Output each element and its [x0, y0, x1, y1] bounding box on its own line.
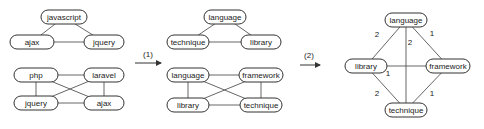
node-label: technique	[389, 106, 424, 115]
node-label: framework	[242, 71, 280, 80]
node-language: language	[167, 68, 209, 82]
node-label: jquery	[92, 38, 115, 47]
node-label: php	[29, 71, 43, 80]
node-technique: technique	[167, 35, 209, 49]
edge-weight-label: 1	[430, 29, 435, 38]
node-label: ajax	[97, 99, 112, 108]
node-language: language	[385, 13, 427, 27]
node-label: jquery	[24, 99, 47, 108]
node-label: language	[209, 13, 242, 22]
node-javascript: javascript	[41, 10, 87, 24]
arrows-layer: (1)(2)	[135, 50, 320, 65]
node-label: language	[390, 16, 423, 25]
node-label: library	[177, 101, 199, 110]
node-jquery: jquery	[14, 96, 58, 110]
node-library: library	[167, 98, 209, 112]
edge-weight-label: 2	[408, 38, 413, 47]
node-ajax: ajax	[10, 35, 54, 49]
node-label: technique	[244, 101, 279, 110]
node-laravel: laravel	[84, 68, 124, 82]
node-label: library	[250, 38, 272, 47]
edge-weight-label: 1	[386, 69, 391, 78]
node-framework: framework	[426, 59, 470, 73]
step-arrow: (1)	[135, 50, 161, 63]
step-label: (2)	[304, 51, 314, 60]
node-jquery: jquery	[84, 35, 124, 49]
edge-weight-label: 1	[430, 89, 435, 98]
graph-transformation-diagram: javascriptajaxjqueryphplaraveljqueryajax…	[0, 0, 484, 129]
node-library: library	[241, 35, 281, 49]
node-label: language	[172, 71, 205, 80]
node-language: language	[204, 10, 246, 24]
node-label: ajax	[25, 38, 40, 47]
node-library: library	[345, 59, 387, 73]
node-ajax: ajax	[84, 96, 124, 110]
node-label: library	[355, 62, 377, 71]
step-label: (1)	[143, 50, 153, 59]
node-label: laravel	[92, 71, 116, 80]
node-framework: framework	[239, 68, 283, 82]
edge-weight-label: 2	[375, 30, 380, 39]
edge-weight-label: 2	[375, 89, 380, 98]
node-label: javascript	[46, 13, 82, 22]
step-arrow: (2)	[300, 51, 320, 65]
node-technique: technique	[385, 103, 427, 117]
node-technique: technique	[240, 98, 282, 112]
node-label: technique	[171, 38, 206, 47]
node-label: framework	[429, 62, 467, 71]
node-php: php	[14, 68, 58, 82]
